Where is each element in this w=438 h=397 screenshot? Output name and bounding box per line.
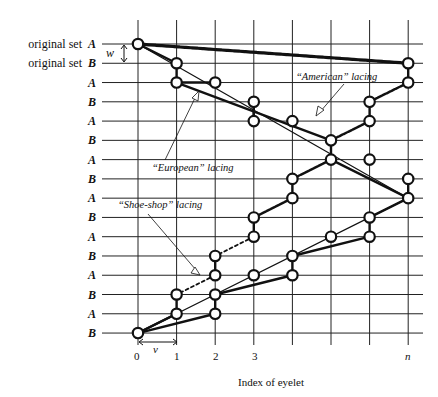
eyelet-circle: [364, 116, 374, 126]
eyelet-circle: [403, 58, 413, 68]
lace-segment: [177, 275, 216, 294]
dimension-w-label: w: [106, 46, 114, 61]
eyelet-circle: [133, 328, 143, 338]
american-arrowhead: [316, 106, 324, 116]
eyelet-circle: [133, 39, 143, 49]
x-tick-1: 1: [174, 351, 180, 362]
eyelet-circle: [403, 77, 413, 87]
row-label: B: [82, 289, 96, 301]
row-label-letter: B: [88, 56, 96, 70]
row-label: A: [82, 192, 96, 204]
row-label-letter: A: [88, 307, 96, 321]
eyelet-circle: [364, 212, 374, 222]
row-label-letter: B: [88, 95, 96, 109]
eyelet-circle: [364, 232, 374, 242]
lace-segment: [138, 314, 177, 333]
eyelet-circle: [326, 232, 336, 242]
european-arrowhead: [192, 91, 199, 101]
row-label: A: [82, 154, 96, 166]
eyelet-circle: [287, 116, 297, 126]
row-label-prefix: original set: [28, 37, 82, 51]
row-label: A: [82, 77, 96, 89]
eyelet-circle: [364, 154, 374, 164]
row-label: B: [82, 96, 96, 108]
eyelet-circle: [210, 309, 220, 319]
eyelet-circle: [249, 270, 259, 280]
x-tick-3: 3: [252, 351, 258, 362]
row-label: A: [82, 115, 96, 127]
eyelet-circle: [287, 193, 297, 203]
x-tick-0: 0: [134, 351, 140, 362]
annotation-arrows: [121, 45, 344, 345]
row-label-letter: B: [88, 210, 96, 224]
row-label-letter: B: [88, 172, 96, 186]
eyelet-circle: [171, 309, 181, 319]
european-lacing-label: “European” lacing: [152, 162, 234, 173]
eyelet-circle: [403, 193, 413, 203]
eyelet-circle: [403, 174, 413, 184]
eyelet-circle: [287, 174, 297, 184]
row-label-letter: A: [88, 191, 96, 205]
eyelet-circle: [210, 270, 220, 280]
row-label: B: [82, 134, 96, 146]
row-label: B: [82, 327, 96, 339]
row-label-letter: B: [88, 249, 96, 263]
shoe-shop-arrow-line: [148, 214, 196, 270]
lace-segment: [331, 121, 370, 140]
eyelet-circle: [249, 97, 259, 107]
lace-segment: [370, 198, 409, 217]
row-label: A: [82, 231, 96, 243]
eyelets: [133, 39, 414, 338]
american-arrow-line: [320, 84, 344, 112]
eyelet-circle: [171, 58, 181, 68]
row-label-letter: A: [88, 76, 96, 90]
shoe-shop-lacing-label: “Shoe-shop” lacing: [118, 199, 202, 210]
eyelet-circle: [249, 212, 259, 222]
row-label-letter: B: [88, 133, 96, 147]
row-label-letter: A: [88, 153, 96, 167]
x-tick-2: 2: [213, 351, 219, 362]
eyelet-circle: [210, 77, 220, 87]
lace-segment: [215, 237, 254, 256]
row-label-letter: B: [88, 288, 96, 302]
row-label-letter: B: [88, 326, 96, 340]
shoe-shop-arrowhead: [191, 267, 200, 275]
lace-segment: [370, 83, 409, 102]
row-label-prefix: original set: [28, 56, 82, 70]
eyelet-circle: [249, 232, 259, 242]
row-label-letter: A: [88, 268, 96, 282]
lace-segment: [254, 198, 293, 217]
row-label: A: [82, 308, 96, 320]
eyelet-circle: [287, 251, 297, 261]
american-lacing-label: “American” lacing: [296, 71, 377, 82]
row-label: original setA: [28, 38, 96, 50]
eyelet-circle: [364, 97, 374, 107]
eyelet-circle: [287, 270, 297, 280]
row-label: B: [82, 250, 96, 262]
eyelet-circle: [171, 289, 181, 299]
x-tick-n: n: [405, 351, 411, 362]
eyelet-circle: [326, 135, 336, 145]
x-axis-title: Index of eyelet: [238, 376, 304, 388]
eyelet-circle: [210, 251, 220, 261]
european-arrow-line: [165, 98, 195, 160]
lace-segment: [292, 160, 331, 179]
row-label: B: [82, 211, 96, 223]
eyelet-circle: [171, 77, 181, 87]
eyelet-circle: [249, 116, 259, 126]
row-label-letter: A: [88, 230, 96, 244]
row-label: original setB: [28, 57, 96, 69]
eyelet-circle: [326, 154, 336, 164]
row-label-letter: A: [88, 37, 96, 51]
row-label: B: [82, 173, 96, 185]
row-label: A: [82, 269, 96, 281]
row-label-letter: A: [88, 114, 96, 128]
dimension-v-label: v: [153, 343, 158, 355]
eyelet-circle: [210, 289, 220, 299]
